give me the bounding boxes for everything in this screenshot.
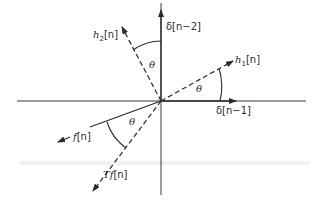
- f-vector: [90, 101, 161, 127]
- theta-label-f: θ: [129, 117, 135, 127]
- Tf-label: Tf[n]: [103, 170, 128, 180]
- f-label: f[n]: [73, 132, 91, 142]
- h2-vector: [122, 27, 161, 101]
- Tf-label-base: Tf: [103, 169, 113, 180]
- angle-arc-h2: [133, 41, 161, 50]
- h1-label: h1[n]: [235, 55, 260, 68]
- delta-n-2-label: δ[n−2]: [166, 22, 201, 32]
- theta-label-h1: θ: [196, 84, 202, 94]
- vector-diagram: [0, 0, 318, 206]
- h1-label-arg: [n]: [246, 54, 260, 65]
- Tf-label-arg: [n]: [113, 169, 127, 180]
- h2-label: h2[n]: [93, 30, 118, 43]
- theta-label-h2: θ: [149, 60, 155, 70]
- angle-arc-h1: [219, 68, 222, 101]
- f-vector-arrow: [58, 137, 70, 142]
- f-label-arg: [n]: [77, 131, 91, 142]
- delta-n-1-label: δ[n−1]: [216, 106, 251, 116]
- angle-arc-f: [107, 122, 126, 148]
- h2-label-arg: [n]: [104, 29, 118, 40]
- h1-vector: [161, 61, 233, 101]
